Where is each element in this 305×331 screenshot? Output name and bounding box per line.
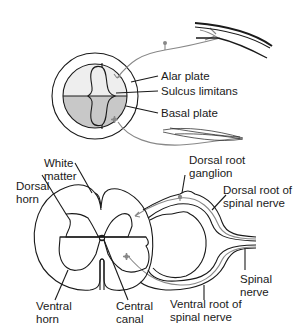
neural-tube-diagram: Alar plate Sulcus limitans Basal plate — [52, 23, 272, 145]
ventral-root-spinal-nerve-label-line2: spinal nerve — [170, 311, 232, 323]
central-canal-label-line2: canal — [116, 313, 144, 325]
central-canal-leader — [104, 240, 128, 300]
ventral-horn-motor-neuron — [123, 253, 130, 260]
ventral-horn-label-line1: Ventral — [36, 300, 72, 312]
spinal-nerve-label-line1: Spinal — [240, 273, 272, 285]
basal-plate-region — [63, 96, 127, 128]
loop-inner-space — [143, 218, 171, 270]
dorsal-horn-label-line1: Dorsal — [16, 180, 49, 192]
ventral-median-fissure — [100, 259, 104, 290]
spinal-nerve-label-line2: nerve — [240, 286, 269, 298]
dorsal-root-ganglion-label-line2: ganglion — [189, 167, 232, 179]
spinal-cord-cross-section: White matter Dorsal horn Dorsal root gan… — [16, 154, 293, 325]
basal-plate-label: Basal plate — [161, 107, 218, 119]
dorsal-root-ganglion-leader — [182, 175, 185, 193]
ventral-horn-leader — [55, 270, 68, 300]
spinal-cord-development-diagram: Alar plate Sulcus limitans Basal plate — [0, 0, 305, 331]
sensory-ganglion-cell — [163, 41, 167, 45]
dorsal-horn-region — [66, 214, 132, 237]
alar-plate-label: Alar plate — [161, 70, 210, 82]
central-canal-label-line1: Central — [116, 300, 153, 312]
spinal-cord-outline — [34, 185, 153, 291]
basal-plate-leader — [126, 106, 158, 113]
ventral-root-spinal-nerve-label-line1: Ventral root of — [170, 298, 242, 310]
dorsal-horn-label-line2: horn — [16, 193, 39, 205]
alar-plate-region — [63, 64, 127, 96]
dorsal-root-ganglion-label-line1: Dorsal root — [189, 154, 246, 166]
white-matter-label-line1: White — [44, 157, 73, 169]
dorsal-root-spinal-nerve-label-line1: Dorsal root of — [223, 184, 293, 196]
white-matter-leader — [75, 163, 92, 193]
sulcus-limitans-label: Sulcus limitans — [161, 85, 238, 97]
dorsal-root-spinal-nerve-label-line2: spinal nerve — [223, 197, 285, 209]
ventral-horn-label-line2: horn — [36, 313, 59, 325]
